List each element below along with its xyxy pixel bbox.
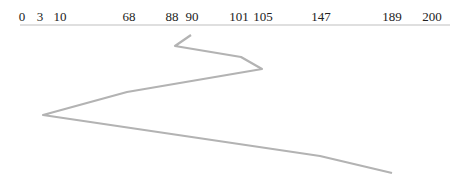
zigzag-diagram	[0, 0, 466, 187]
zigzag-path	[43, 35, 392, 173]
